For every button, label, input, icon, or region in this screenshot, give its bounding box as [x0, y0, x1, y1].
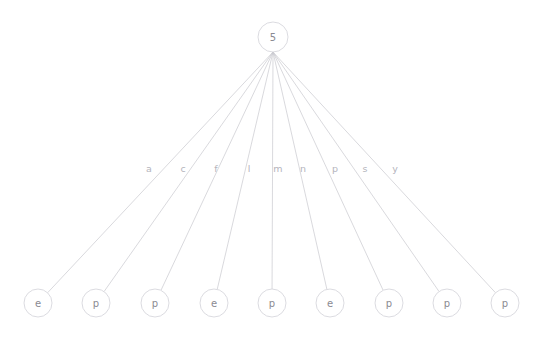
leaf-node-5-label: p — [269, 298, 275, 309]
leaf-node-9[interactable]: p — [491, 289, 519, 317]
leaf-node-6[interactable]: e — [316, 289, 344, 317]
leaf-node-9-label: p — [502, 298, 508, 309]
leaf-node-4-label: e — [211, 298, 217, 309]
edge-label-f: f — [214, 163, 218, 174]
leaf-node-4[interactable]: e — [200, 289, 228, 317]
root-node-label: 5 — [270, 32, 276, 43]
tree-diagram-canvas: acflmnpsy 5eppepeppp — [0, 0, 537, 338]
leaf-node-6-label: e — [327, 298, 333, 309]
edge-label-l: l — [248, 163, 251, 174]
leaf-node-1[interactable]: e — [24, 289, 52, 317]
root-node[interactable]: 5 — [258, 22, 288, 52]
tree-diagram-svg: acflmnpsy 5eppepeppp — [0, 0, 537, 338]
edge-label-y: y — [392, 163, 398, 174]
leaf-node-3-label: p — [152, 298, 158, 309]
edge-label-p: p — [332, 163, 338, 174]
tree-edge-y — [273, 52, 495, 293]
leaf-node-1-label: e — [35, 298, 41, 309]
leaf-node-8-label: p — [444, 298, 450, 309]
edge-label-s: s — [363, 163, 368, 174]
leaf-node-2-label: p — [93, 298, 99, 309]
nodes-layer: 5eppepeppp — [24, 22, 519, 317]
tree-edge-a — [48, 52, 273, 293]
edges-layer — [48, 52, 496, 293]
leaf-node-8[interactable]: p — [433, 289, 461, 317]
leaf-node-5[interactable]: p — [258, 289, 286, 317]
edge-labels-layer: acflmnpsy — [146, 163, 398, 174]
leaf-node-7-label: p — [386, 298, 392, 309]
tree-edge-s — [273, 52, 439, 291]
leaf-node-7[interactable]: p — [375, 289, 403, 317]
leaf-node-3[interactable]: p — [141, 289, 169, 317]
edge-label-m: m — [273, 163, 282, 174]
tree-edge-l — [217, 52, 273, 289]
edge-label-a: a — [146, 163, 152, 174]
edge-label-c: c — [180, 163, 185, 174]
edge-label-n: n — [300, 163, 306, 174]
leaf-node-2[interactable]: p — [82, 289, 110, 317]
